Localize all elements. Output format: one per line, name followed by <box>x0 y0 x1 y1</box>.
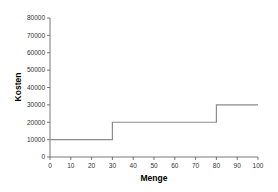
y-tick-label: 60000 <box>27 49 45 56</box>
x-tick-label: 100 <box>253 162 264 169</box>
x-axis-title: Menge <box>141 173 168 183</box>
x-tick-label: 10 <box>67 162 75 169</box>
x-tick-label: 0 <box>48 162 52 169</box>
x-tick-label: 20 <box>88 162 96 169</box>
y-tick-label: 20000 <box>27 119 45 126</box>
y-axis-title: Kosten <box>13 73 23 102</box>
data-series <box>50 105 258 140</box>
y-tick-label: 50000 <box>27 66 45 73</box>
y-tick-label: 40000 <box>27 84 45 91</box>
x-tick-label: 30 <box>109 162 117 169</box>
x-tick-label: 80 <box>213 162 221 169</box>
y-tick-label: 80000 <box>27 14 45 21</box>
x-tick-label: 40 <box>130 162 138 169</box>
y-tick-label: 70000 <box>27 32 45 39</box>
x-tick-label: 60 <box>171 162 179 169</box>
x-tick-label: 90 <box>234 162 242 169</box>
y-tick-label: 30000 <box>27 101 45 108</box>
y-tick-label: 10000 <box>27 136 45 143</box>
x-tick-label: 50 <box>150 162 158 169</box>
x-tick-label: 70 <box>192 162 200 169</box>
step-line <box>50 105 258 140</box>
x-axis: 0102030405060708090100 <box>48 157 264 169</box>
y-axis: 0100002000030000400005000060000700008000… <box>27 14 50 160</box>
step-cost-chart: 0100002000030000400005000060000700008000… <box>0 0 278 192</box>
y-tick-label: 0 <box>41 153 45 160</box>
